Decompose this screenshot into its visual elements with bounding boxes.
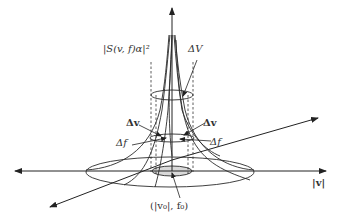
horizontal-axis-label: |v| [312, 177, 325, 189]
center-point-label: (|v₀|, f₀) [150, 200, 188, 212]
delta-V-label: ΔV [187, 43, 204, 54]
delta-V-pointer [183, 60, 197, 96]
surface-curve-left-inner [124, 35, 170, 185]
surface-curve-right-outer [175, 35, 254, 170]
vertical-axis-label: |S(v, f)α|² [103, 43, 150, 55]
delta-v-left-label: Δv [126, 117, 141, 128]
delta-f-right-label: Δf [209, 136, 223, 147]
center-point-pointer [172, 173, 180, 198]
surface-curve-left-outer [86, 35, 169, 170]
spectral-peak-diagram: |S(v, f)α|² ΔV Δv Δv Δf Δf |v| (|v₀|, f₀… [0, 0, 342, 223]
delta-f-left-label: Δf [115, 137, 129, 148]
delta-v-right-label: Δv [203, 117, 218, 128]
delta-f-right-pointer [180, 139, 211, 141]
